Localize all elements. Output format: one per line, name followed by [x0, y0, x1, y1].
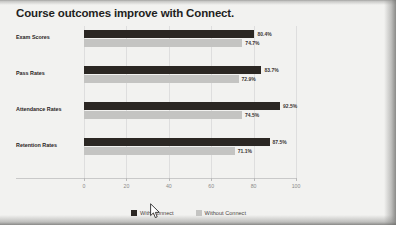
- legend-item[interactable]: Without Connect: [196, 210, 246, 216]
- legend-label: Without Connect: [205, 210, 246, 216]
- bar-value-label: 71.1%: [238, 148, 252, 154]
- bar-track: 83.7%72.9%: [84, 66, 296, 84]
- bar-value-label: 72.9%: [242, 76, 256, 82]
- bar-group: Pass Rates83.7%72.9%: [16, 66, 361, 84]
- x-axis-tick: [169, 178, 170, 181]
- bar-track: 87.5%71.1%: [84, 138, 296, 156]
- x-axis-tick-label: 0: [83, 183, 86, 189]
- bar-group: Exam Scores80.4%74.7%: [16, 30, 361, 48]
- chart-legend: With ConnectWithout Connect: [16, 210, 361, 216]
- page-edge-bottom-shadow: [0, 215, 396, 225]
- x-axis-tick-label: 100: [292, 183, 301, 189]
- bar-with-connect[interactable]: [84, 30, 254, 38]
- bar-without-connect[interactable]: [84, 39, 242, 47]
- legend-swatch-icon: [131, 210, 137, 216]
- x-axis-tick: [296, 178, 297, 181]
- bar-value-label: 87.5%: [273, 139, 287, 145]
- bar-without-connect[interactable]: [84, 111, 242, 119]
- bar-without-connect[interactable]: [84, 75, 239, 83]
- page-edge-top-shadow: [0, 0, 396, 5]
- x-axis-tick-label: 20: [124, 183, 130, 189]
- bar-value-label: 83.7%: [264, 67, 278, 73]
- x-axis-tick-label: 40: [166, 183, 172, 189]
- x-axis-tick-label: 60: [208, 183, 214, 189]
- bar-track: 92.5%74.5%: [84, 102, 296, 120]
- x-axis-tick: [84, 178, 85, 181]
- bar-value-label: 80.4%: [257, 31, 271, 37]
- chart-title: Course outcomes improve with Connect.: [16, 7, 234, 19]
- legend-swatch-icon: [196, 210, 202, 216]
- x-axis-tick: [126, 178, 127, 181]
- bar-with-connect[interactable]: [84, 102, 280, 110]
- chart-plot-area: 020406080100 Exam Scores80.4%74.7%Pass R…: [16, 26, 361, 186]
- legend-label: With Connect: [140, 210, 174, 216]
- x-axis-tick: [211, 178, 212, 181]
- bar-track: 80.4%74.7%: [84, 30, 296, 48]
- bar-with-connect[interactable]: [84, 66, 261, 74]
- category-label: Attendance Rates: [16, 106, 78, 112]
- bar-with-connect[interactable]: [84, 138, 270, 146]
- category-label: Retention Rates: [16, 142, 78, 148]
- slide-canvas: Course outcomes improve with Connect. 02…: [0, 0, 396, 225]
- page-edge-right-shadow: [384, 0, 396, 225]
- x-axis-tick: [254, 178, 255, 181]
- bar-value-label: 74.7%: [245, 40, 259, 46]
- bar-group: Attendance Rates92.5%74.5%: [16, 102, 361, 120]
- legend-item[interactable]: With Connect: [131, 210, 174, 216]
- bar-group: Retention Rates87.5%71.1%: [16, 138, 361, 156]
- x-axis-tick-label: 80: [251, 183, 257, 189]
- category-label: Pass Rates: [16, 70, 78, 76]
- bar-value-label: 74.5%: [245, 112, 259, 118]
- bar-value-label: 92.5%: [283, 103, 297, 109]
- bar-without-connect[interactable]: [84, 147, 235, 155]
- category-label: Exam Scores: [16, 34, 78, 40]
